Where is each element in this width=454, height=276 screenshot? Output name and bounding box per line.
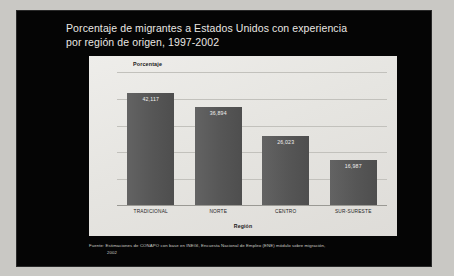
bar-tradicional[interactable]: 42,117 [127, 93, 174, 205]
category-label-tradicional: TRADICIONAL [113, 209, 189, 214]
presentation-slide: Porcentaje de migrantes a Estados Unidos… [17, 11, 431, 266]
chart-panel: Porcentaje 42,117 TRADICIONAL 36,894 [89, 56, 397, 236]
bar-value-label: 16,987 [330, 163, 377, 169]
bar-slot: 36,894 NORTE [195, 72, 242, 205]
plot-area: 42,117 TRADICIONAL 36,894 NORTE 26,023 C… [117, 72, 387, 206]
bar-slot: 42,117 TRADICIONAL [127, 72, 174, 205]
category-label-centro: CENTRO [248, 209, 324, 214]
bar-slot: 16,987 SUR-SURESTE [330, 72, 377, 205]
source-note-line1: Fuente: Estimaciones de CONAPO con base … [89, 243, 325, 248]
x-axis-title: Región [89, 223, 397, 229]
page-title: Porcentaje de migrantes a Estados Unidos… [66, 21, 396, 49]
bar-centro[interactable]: 26,023 [262, 136, 309, 205]
bar-sur-sureste[interactable]: 16,987 [330, 160, 377, 205]
bar-value-label: 26,023 [262, 139, 309, 145]
category-label-sur-sureste: SUR-SURESTE [315, 209, 391, 214]
bar-series: 42,117 TRADICIONAL 36,894 NORTE 26,023 C… [117, 72, 387, 205]
category-label-norte: NORTE [180, 209, 256, 214]
bar-norte[interactable]: 36,894 [195, 107, 242, 205]
bar-value-label: 36,894 [195, 110, 242, 116]
bar-slot: 26,023 CENTRO [262, 72, 309, 205]
y-axis-title: Porcentaje [133, 61, 162, 67]
x-axis-line [117, 205, 387, 206]
source-note: Fuente: Estimaciones de CONAPO con base … [89, 242, 409, 256]
bar-value-label: 42,117 [127, 96, 174, 102]
source-note-line2: 2002 [107, 249, 409, 256]
